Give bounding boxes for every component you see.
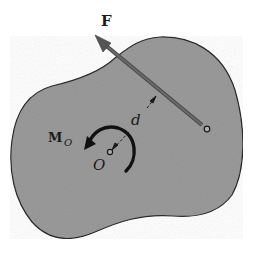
moment-diagram: F d O M O	[0, 0, 265, 253]
force-label: F	[101, 12, 112, 30]
distance-label: d	[131, 111, 141, 129]
rigid-body	[11, 37, 243, 239]
point-o-marker	[107, 149, 112, 154]
moment-label-sub: O	[64, 137, 72, 148]
force-application-point	[204, 126, 210, 132]
point-o-label: O	[93, 156, 105, 174]
moment-label-main: M	[48, 130, 62, 145]
